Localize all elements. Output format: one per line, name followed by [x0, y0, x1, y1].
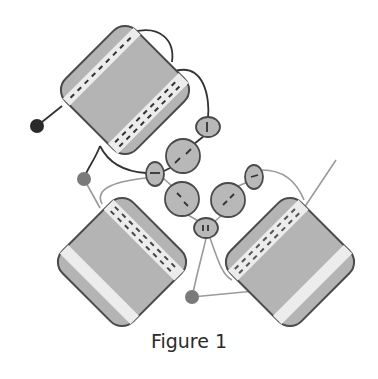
- bead-dashes: [150, 122, 258, 231]
- bead-1: [196, 117, 220, 137]
- beads: [146, 117, 263, 238]
- dark-terminal-dot: [30, 119, 44, 133]
- mid-terminal-dot-left: [77, 172, 91, 186]
- bead-3: [146, 162, 164, 186]
- mid-terminal-dot-bottom: [185, 290, 199, 304]
- bead-5: [211, 183, 245, 217]
- bead-2: [166, 139, 200, 173]
- bead-7: [194, 218, 218, 238]
- bead-4: [165, 182, 199, 216]
- figure-caption: Figure 1: [0, 330, 378, 352]
- top-block: [54, 19, 195, 160]
- molecular-diagram: [0, 0, 378, 330]
